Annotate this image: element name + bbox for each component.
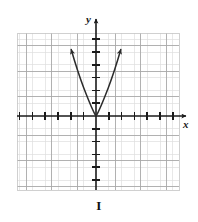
graph-figure: y x I bbox=[0, 0, 198, 222]
x-axis-label: x bbox=[183, 119, 189, 130]
coordinate-plane-graph bbox=[0, 0, 198, 222]
y-axis-label: y bbox=[86, 14, 91, 25]
figure-caption: I bbox=[0, 199, 198, 212]
